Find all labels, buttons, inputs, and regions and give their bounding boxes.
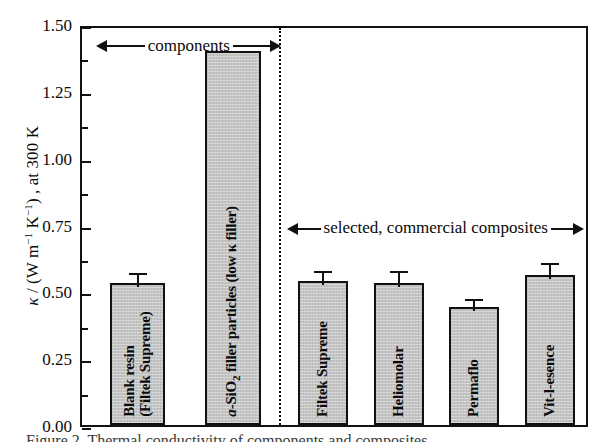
y-tick-major <box>82 94 91 96</box>
y-tick-label: 1.00 <box>26 151 72 168</box>
y-tick-label: 1.50 <box>26 17 72 34</box>
y-tick-label: 0.75 <box>26 218 72 235</box>
bar-blank-resin-errorbar-cap <box>129 273 147 275</box>
bar-filtek-supreme-label: Filtek Supreme <box>315 321 331 417</box>
figure-caption: Figure 2. Thermal conductivity of compon… <box>26 432 586 442</box>
plot-area: Blank resin(Filtek Supreme)a-SiO2 filler… <box>80 26 588 427</box>
bar-heliomolar-errorbar-cap <box>390 271 408 273</box>
y-tick-major <box>82 161 91 163</box>
bar-filtek-supreme: Filtek Supreme <box>298 281 348 425</box>
y-tick-minor <box>82 60 88 62</box>
composites-span-text: selected, commercial composites <box>321 219 551 236</box>
bar-filtek-supreme-errorbar-cap <box>314 271 332 273</box>
bar-permaflo: Permaflo <box>449 307 499 425</box>
composites-span-line-right <box>551 228 573 230</box>
y-tick-minor <box>82 328 88 330</box>
bar-permaflo-errorbar-cap <box>465 299 483 301</box>
bar-vit-l-esence: Vit-l-esence <box>525 275 575 425</box>
components-span-line-right <box>233 45 271 47</box>
figure-root: κ / (W m−1 K−1) , at 300 K 1.501.251.000… <box>0 0 596 442</box>
y-tick-label: 0.50 <box>26 284 72 301</box>
y-axis-tick-labels: 1.501.251.000.750.500.250.00 <box>20 0 72 442</box>
bar-blank-resin-label-line2: (Filtek Supreme) <box>138 312 154 417</box>
y-tick-label: 1.25 <box>26 84 72 101</box>
y-tick-minor <box>82 127 88 129</box>
y-tick-major <box>82 428 91 430</box>
bar-heliomolar-errorbar <box>398 271 400 287</box>
bar-a-sio2-filler-label: a-SiO2 filler particles (low κ filler) <box>223 206 242 417</box>
composites-span-left-arrow-icon <box>287 223 298 235</box>
y-tick-minor <box>82 194 88 196</box>
bar-permaflo-label: Permaflo <box>466 359 482 417</box>
components-span-line-left <box>107 45 145 47</box>
y-tick-major <box>82 294 91 296</box>
components-span-left-arrow-icon <box>96 40 107 52</box>
bar-vit-l-esence-errorbar-cap <box>541 263 559 265</box>
bar-heliomolar-label: Heliomolar <box>391 347 407 417</box>
composites-span-right-arrow-icon <box>573 223 584 235</box>
y-tick-major <box>82 27 91 29</box>
bar-blank-resin: Blank resin(Filtek Supreme) <box>110 283 166 425</box>
bar-filtek-supreme-errorbar <box>322 271 324 284</box>
y-tick-major <box>82 228 91 230</box>
bar-vit-l-esence-errorbar <box>549 263 551 279</box>
y-tick-label: 0.25 <box>26 351 72 368</box>
y-tick-major <box>82 361 91 363</box>
bar-blank-resin-label: Blank resin(Filtek Supreme) <box>122 312 154 417</box>
bar-blank-resin-errorbar <box>137 273 139 288</box>
y-tick-minor <box>82 261 88 263</box>
bar-heliomolar: Heliomolar <box>374 283 424 425</box>
bar-a-sio2-filler: a-SiO2 filler particles (low κ filler) <box>205 51 261 425</box>
bar-vit-l-esence-label: Vit-l-esence <box>542 345 558 417</box>
composites-span-line-left <box>298 228 320 230</box>
y-tick-minor <box>82 395 88 397</box>
group-divider-line <box>279 28 281 425</box>
composites-span: selected, commercial composites <box>287 219 584 239</box>
